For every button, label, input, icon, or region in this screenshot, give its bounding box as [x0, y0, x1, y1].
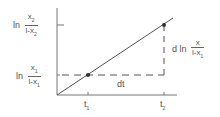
dt-label: dt	[117, 79, 125, 89]
y-label-upper: ln x2 l-x2	[13, 12, 38, 38]
dy-label: d ln x l-x1	[172, 38, 204, 61]
point-2	[162, 23, 166, 27]
trend-line	[57, 18, 173, 95]
x-label-t2: t2	[160, 99, 165, 111]
y-label-lower: ln x1 l-x1	[16, 63, 41, 89]
point-1	[86, 73, 90, 77]
x-label-t1: t1	[84, 99, 89, 111]
